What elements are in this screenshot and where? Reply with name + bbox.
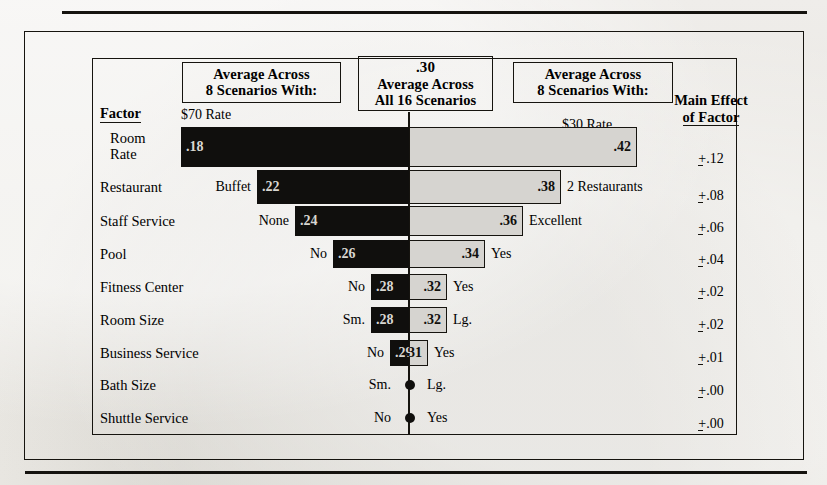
label-low-5: No [348, 279, 365, 295]
figure-page: Average Across 8 Scenarios With: .30 Ave… [0, 0, 827, 485]
label-high-2: 2 Restaurants [567, 179, 643, 195]
label-low-8: Sm. [369, 377, 391, 393]
value-high-1: .42 [614, 139, 632, 155]
factor-name-pool: Pool [100, 246, 127, 263]
label-low-3: None [259, 213, 289, 229]
label-high-6: Lg. [453, 312, 472, 328]
main-effect-value-6: +.02 [655, 317, 767, 333]
main-effect-value-9: +.00 [655, 416, 767, 432]
value-high-3: .36 [500, 213, 518, 229]
main-effect-number-9: .00 [706, 416, 724, 431]
value-low-3: .24 [300, 213, 318, 229]
main-effect-value-8: +.00 [655, 383, 767, 399]
label-high-3: Excellent [529, 213, 582, 229]
main-effect-number-2: .08 [706, 188, 724, 203]
main-effect-value-2: +.08 [655, 188, 767, 204]
label-low-7: No [367, 345, 384, 361]
factor-name-room-rate: RoomRate [110, 131, 145, 162]
main-effect-number-6: .02 [706, 317, 724, 332]
main-effect-number-4: .04 [706, 252, 724, 267]
label-high-5: Yes [453, 279, 473, 295]
main-effect-number-7: .01 [706, 350, 724, 365]
value-low-6: .28 [376, 312, 394, 328]
main-effect-number-8: .00 [706, 383, 724, 398]
value-high-5: .32 [424, 279, 442, 295]
value-high-7: .31 [405, 345, 423, 361]
label-high-4: Yes [491, 246, 511, 262]
label-high-9: Yes [427, 410, 447, 426]
bar-high-1 [409, 127, 637, 167]
factor-name-staff-service: Staff Service [100, 213, 175, 230]
center-dot-marker-8 [405, 380, 415, 390]
main-effect-value-4: +.04 [655, 252, 767, 268]
main-effect-value-3: +.06 [655, 220, 767, 236]
factor-name-business-service: Business Service [100, 345, 199, 362]
bar-low-1 [181, 127, 409, 167]
label-low-2: Buffet [215, 179, 251, 195]
main-effect-value-1: +.12 [655, 151, 767, 167]
label-high-7: Yes [434, 345, 454, 361]
value-low-2: .22 [262, 179, 280, 195]
main-effect-value-5: +.02 [655, 284, 767, 300]
value-low-1: .18 [186, 139, 204, 155]
bar-low-2 [257, 170, 409, 204]
label-low-6: Sm. [343, 312, 365, 328]
factor-name-shuttle-service: Shuttle Service [100, 410, 188, 427]
main-effect-number-3: .06 [706, 220, 724, 235]
factor-name-room-size: Room Size [100, 312, 164, 329]
label-high-8: Lg. [427, 377, 446, 393]
main-effect-number-5: .02 [706, 284, 724, 299]
factor-name-fitness-center: Fitness Center [100, 279, 183, 296]
main-effect-number-1: .12 [706, 151, 724, 166]
factor-name-restaurant: Restaurant [100, 179, 162, 196]
label-low-9: No [374, 410, 391, 426]
label-low-4: No [310, 246, 327, 262]
value-high-4: .34 [462, 246, 480, 262]
value-high-6: .32 [424, 312, 442, 328]
main-effect-value-7: +.01 [655, 350, 767, 366]
value-low-4: .26 [338, 246, 356, 262]
value-low-5: .28 [376, 279, 394, 295]
center-dot-marker-9 [405, 413, 415, 423]
factor-name-bath-size: Bath Size [100, 377, 156, 394]
tornado-chart: RoomRate.18.42+.12Restaurant.22.38Buffet… [0, 0, 827, 485]
value-high-2: .38 [538, 179, 556, 195]
